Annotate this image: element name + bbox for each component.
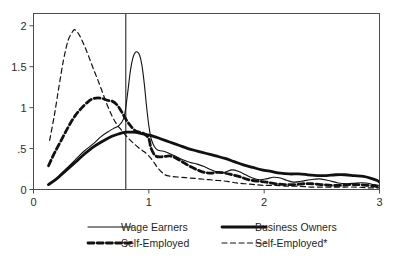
legend-item-wage-earners: Wage Earners bbox=[88, 221, 188, 233]
x-tick-label: 1 bbox=[146, 196, 152, 208]
chart-svg: 0.511.52 0123 Wage EarnersBusiness Owner… bbox=[0, 0, 396, 257]
series-line-self-employed bbox=[50, 30, 380, 188]
y-axis-ticks: 0.511.52 bbox=[11, 20, 33, 196]
y-tick-label: 0 bbox=[20, 184, 26, 196]
legend-label: Business Owners bbox=[255, 221, 337, 233]
series-line-wage-earners bbox=[48, 52, 379, 186]
x-axis-ticks: 0123 bbox=[30, 190, 382, 208]
plot-frame bbox=[34, 14, 380, 190]
y-tick-label: 2 bbox=[20, 20, 26, 32]
legend-item-business-owners: Business Owners bbox=[222, 221, 337, 233]
y-tick-label: 1.5 bbox=[11, 61, 26, 73]
x-tick-label: 0 bbox=[30, 196, 36, 208]
x-tick-label: 3 bbox=[376, 196, 382, 208]
x-tick-label: 2 bbox=[261, 196, 267, 208]
legend-label: Self-Employed* bbox=[255, 237, 327, 249]
legend-label: Wage Earners bbox=[121, 221, 188, 233]
series-layer bbox=[48, 30, 379, 188]
y-tick-label: .5 bbox=[17, 143, 26, 155]
legend-label: Self-Employed bbox=[121, 237, 189, 249]
density-chart-figure: 0.511.52 0123 Wage EarnersBusiness Owner… bbox=[0, 0, 396, 257]
legend-item-self-employed: Self-Employed* bbox=[222, 237, 327, 249]
chart-legend: Wage EarnersBusiness OwnersSelf-Employed… bbox=[88, 221, 337, 249]
y-tick-label: 1 bbox=[20, 102, 26, 114]
legend-item-self-employed: Self-Employed bbox=[88, 237, 189, 249]
